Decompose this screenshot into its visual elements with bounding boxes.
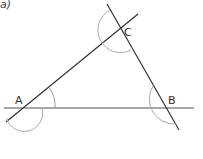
part-label: a) <box>0 0 11 11</box>
vertex-label-b: B <box>168 94 176 107</box>
angle-arc-a-interior <box>50 88 56 108</box>
line-ac <box>6 14 138 122</box>
triangle-diagram: a) A B C <box>0 0 203 159</box>
angle-arc-a-exterior <box>7 108 43 131</box>
vertex-label-a: A <box>15 94 23 107</box>
vertex-label-c: C <box>124 26 132 39</box>
line-bc <box>107 4 179 130</box>
